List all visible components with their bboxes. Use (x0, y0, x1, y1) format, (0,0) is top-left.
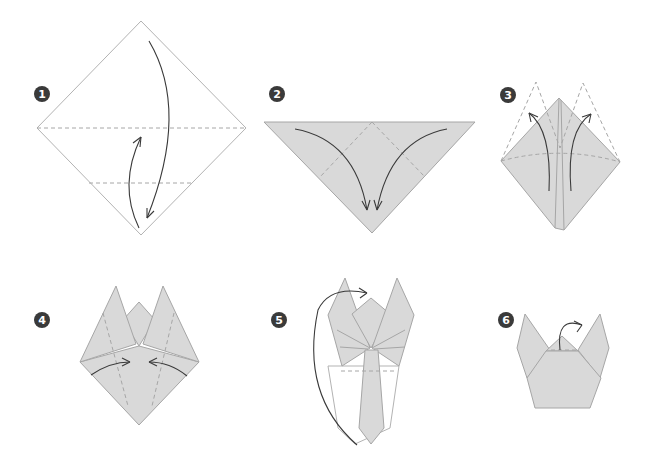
step-6-badge: 6 (498, 312, 514, 328)
step-5: 5 (271, 278, 414, 445)
svg-text:1: 1 (38, 88, 46, 101)
step-2-badge: 2 (269, 86, 285, 102)
step-4: 4 (34, 286, 199, 425)
step-6-arrowhead-icon (574, 321, 582, 332)
step-5-badge: 5 (271, 312, 287, 328)
step-2-triangle (264, 122, 475, 233)
step-2: 2 (264, 86, 475, 233)
step-1-badge: 1 (34, 86, 50, 102)
origami-diagram: 1 2 3 (0, 0, 656, 454)
step-3-diamond (501, 98, 620, 230)
step-5-tie-stem (359, 350, 384, 444)
svg-text:2: 2 (273, 88, 281, 101)
svg-text:5: 5 (275, 314, 283, 327)
step-6-center-tip (546, 336, 578, 351)
step-1: 1 (34, 21, 246, 235)
step-3: 3 (500, 82, 620, 230)
svg-text:3: 3 (504, 89, 512, 102)
svg-text:4: 4 (38, 314, 46, 327)
step-3-badge: 3 (500, 87, 516, 103)
step-6: 6 (498, 312, 609, 408)
svg-text:6: 6 (502, 314, 510, 327)
step-4-body (80, 346, 199, 425)
step-4-badge: 4 (34, 312, 50, 328)
